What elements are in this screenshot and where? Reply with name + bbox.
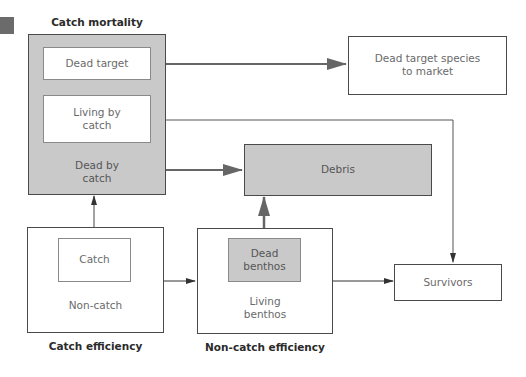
living-benthos-label: Living benthos <box>197 295 333 321</box>
catch-label: Catch <box>58 253 131 266</box>
catch-mortality-title: Catch mortality <box>28 16 166 28</box>
non-catch-label: Non-catch <box>27 299 164 312</box>
catch-efficiency-title: Catch efficiency <box>27 340 164 352</box>
dead-bycatch-label: Dead by catch <box>43 159 151 185</box>
non-catch-efficiency-title: Non-catch efficiency <box>197 341 333 353</box>
debris-label: Debris <box>244 163 432 176</box>
survivors-label: Survivors <box>394 276 502 289</box>
market-label: Dead target species to market <box>348 52 507 78</box>
dead-benthos-label: Dead benthos <box>228 247 301 273</box>
living-bycatch-label: Living by catch <box>43 106 151 132</box>
dead-target-label: Dead target <box>43 57 151 70</box>
